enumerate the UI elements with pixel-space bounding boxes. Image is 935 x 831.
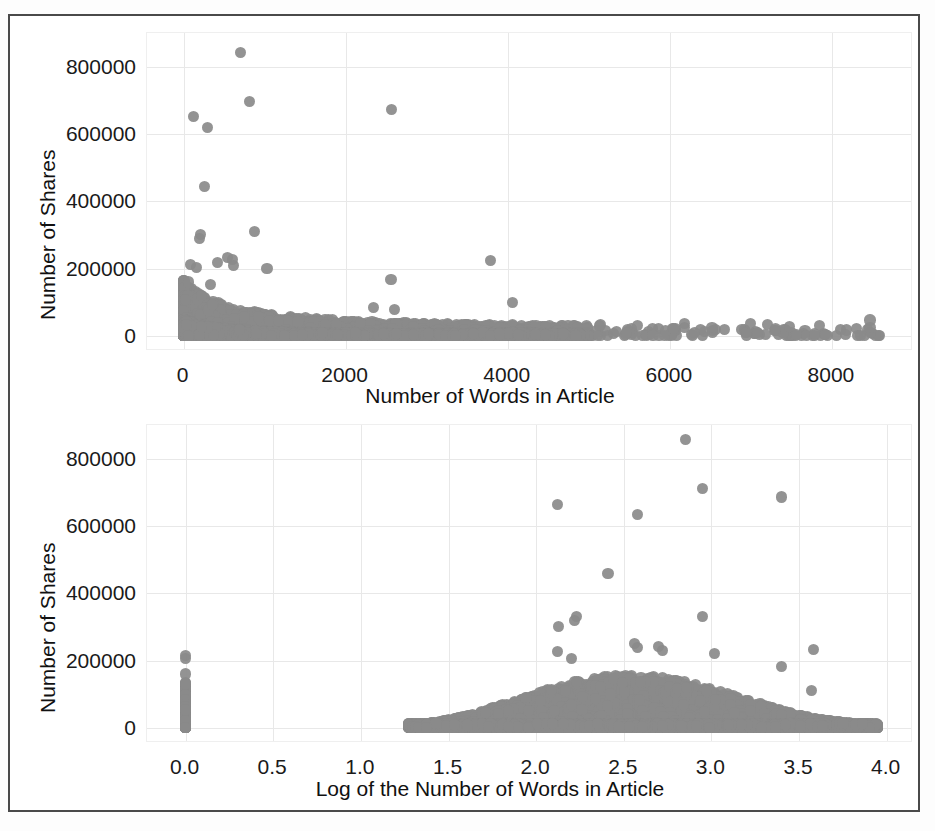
data-point [228,260,239,271]
y-tick-label: 800000 [16,56,136,77]
gridline-horizontal [147,526,911,527]
gridline-vertical [887,425,888,741]
x-tick-label: 0 [177,364,189,385]
data-point [212,257,223,268]
data-point [560,685,571,696]
data-point [710,694,721,705]
gridline-vertical [449,425,450,741]
data-point [864,314,875,325]
x-tick-label: 1.0 [345,756,374,777]
data-point [697,611,708,622]
data-point [196,321,207,332]
plot-area-top [146,32,912,350]
data-point [795,720,806,731]
data-point [701,685,712,696]
data-point [632,509,643,520]
data-point [485,255,496,266]
x-axis-label-top: Number of Words in Article [365,384,614,408]
data-point [191,262,202,273]
x-tick-label: 2.5 [608,756,637,777]
data-point [770,323,781,334]
data-point [569,615,580,626]
data-point [205,279,216,290]
data-point [590,693,601,704]
data-point [566,653,577,664]
data-point [202,122,213,133]
data-point [608,328,619,339]
data-point [709,648,720,659]
data-point [756,722,767,733]
data-point [570,330,581,341]
x-tick-label: 8000 [808,364,855,385]
data-point [552,499,563,510]
y-tick-label: 400000 [16,190,136,211]
data-point [770,721,781,732]
scatter-chart-words-vs-shares: Number of Shares Number of Words in Arti… [0,0,935,415]
gridline-vertical [799,425,800,741]
gridline-horizontal [147,67,911,68]
data-point [234,324,245,335]
data-point [577,691,588,702]
y-tick-label: 0 [16,717,136,738]
data-point [194,233,205,244]
data-point [681,682,692,693]
scatter-chart-logwords-vs-shares: Number of Shares Log of the Number of Wo… [0,415,935,831]
data-point [678,699,689,710]
gridline-horizontal [147,201,911,202]
x-tick-label: 2000 [321,364,368,385]
x-tick-label: 3.5 [783,756,812,777]
data-point [507,297,518,308]
data-point [332,329,343,340]
data-point [449,719,460,730]
data-point [837,718,848,729]
data-point [368,302,379,313]
data-point [602,568,613,579]
data-point [553,621,564,632]
data-point [249,226,260,237]
gridline-vertical [670,33,671,349]
data-point [183,276,194,287]
data-point [196,290,207,301]
gridline-vertical [832,33,833,349]
data-point [680,434,691,445]
data-point [752,327,763,338]
x-tick-label: 4.0 [871,756,900,777]
data-point [576,704,587,715]
data-point [180,294,191,305]
x-tick-label: 4000 [483,364,530,385]
data-point [468,328,479,339]
y-tick-label: 200000 [16,258,136,279]
data-point [430,718,441,729]
data-point [566,699,577,710]
data-point [657,720,668,731]
data-point [292,316,303,327]
data-point [180,668,191,679]
data-point [552,646,563,657]
y-tick-label: 200000 [16,650,136,671]
data-point [776,661,787,672]
data-point [261,263,272,274]
y-axis-label-bottom: Number of Shares [36,543,60,713]
data-point [776,491,787,502]
data-point [513,329,524,340]
data-point [462,719,473,730]
gridline-horizontal [147,134,911,135]
data-point [632,642,643,653]
plot-area-bottom [146,424,912,742]
figure-page: Number of Shares Number of Words in Arti… [0,0,935,831]
data-point [808,644,819,655]
data-point [180,653,191,664]
data-point [613,721,624,732]
data-point [251,328,262,339]
data-point [244,96,255,107]
data-point [494,328,505,339]
gridline-horizontal [147,661,911,662]
x-axis-label-bottom: Log of the Number of Words in Article [316,777,665,801]
data-point [279,330,290,341]
data-point [676,720,687,731]
data-point [180,722,191,733]
data-point [806,685,817,696]
data-point [386,104,397,115]
data-point [253,311,264,322]
data-point [697,483,708,494]
